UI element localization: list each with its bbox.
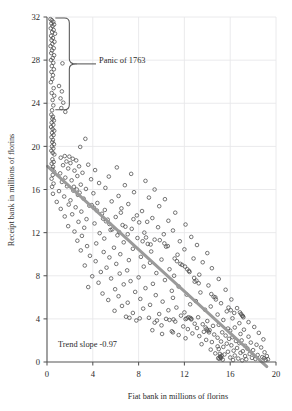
trend-slope-label: Trend slope -0.97 bbox=[58, 340, 117, 349]
y-tick-label: 16 bbox=[31, 185, 40, 195]
y-tick-label: 0 bbox=[36, 357, 40, 367]
y-tick-label: 32 bbox=[31, 12, 40, 22]
y-tick-label: 28 bbox=[31, 55, 40, 65]
x-axis-label: Fiat bank in millions of florins bbox=[128, 392, 228, 401]
scatter-plot-svg: 048121620242832 048121620 Receipt bank i… bbox=[0, 0, 292, 411]
chart-figure: 048121620242832 048121620 Receipt bank i… bbox=[0, 0, 292, 411]
x-tick-label: 12 bbox=[180, 369, 189, 379]
y-tick-label: 20 bbox=[31, 142, 40, 152]
y-tick-label: 12 bbox=[31, 228, 40, 238]
panic-of-1763-label: Panic of 1763 bbox=[99, 56, 146, 65]
y-tick-label: 4 bbox=[36, 314, 41, 324]
x-tick-label: 8 bbox=[136, 369, 140, 379]
y-tick-label: 8 bbox=[36, 271, 40, 281]
x-tick-label: 16 bbox=[226, 369, 235, 379]
y-axis-label: Receipt bank in millions of florins bbox=[7, 134, 16, 247]
x-tick-label: 0 bbox=[45, 369, 49, 379]
x-tick-label: 4 bbox=[91, 369, 96, 379]
x-tick-label: 20 bbox=[272, 369, 281, 379]
y-tick-label: 24 bbox=[31, 98, 40, 108]
